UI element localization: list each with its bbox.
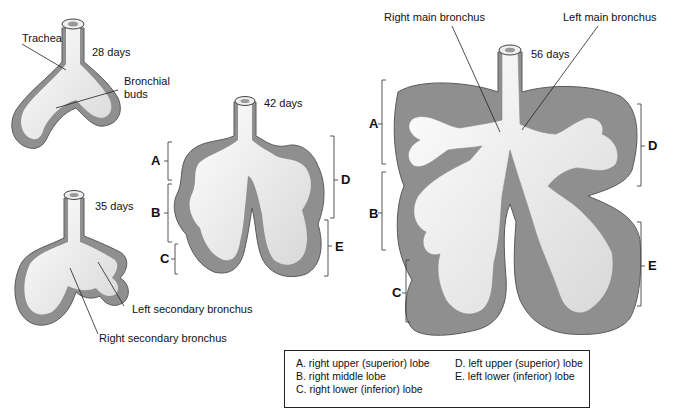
stage-42-days-lung — [164, 97, 338, 277]
legend-item-b: B. right middle lobe — [296, 370, 386, 382]
letter-d-42: D — [341, 173, 350, 187]
letter-c-56: C — [392, 286, 401, 300]
stage-35-days-lung — [15, 191, 128, 335]
label-right-main-bronchus: Right main bronchus — [384, 11, 485, 23]
label-35-days: 35 days — [95, 200, 134, 212]
legend-item-c: C. right lower (inferior) lobe — [296, 383, 423, 395]
letter-d-56: D — [648, 139, 657, 153]
label-left-secondary-bronchus: Left secondary bronchus — [132, 303, 252, 315]
label-28-days: 28 days — [92, 46, 131, 58]
letter-a-56: A — [369, 117, 378, 131]
label-bronchial-buds-line1: Bronchial — [124, 75, 170, 87]
letter-e-56: E — [648, 259, 657, 273]
label-right-secondary-bronchus: Right secondary bronchus — [99, 332, 227, 344]
lobe-legend: A. right upper (superior) lobe B. right … — [284, 350, 590, 408]
letter-a-42: A — [151, 154, 160, 168]
legend-item-a: A. right upper (superior) lobe — [296, 357, 430, 369]
label-bronchial-buds-line2: buds — [124, 88, 148, 100]
stage-56-days-lung — [378, 26, 645, 335]
legend-item-d: D. left upper (superior) lobe — [455, 357, 583, 369]
letter-b-42: B — [151, 206, 160, 220]
letter-e-42: E — [335, 240, 344, 254]
label-trachea: Trachea — [22, 32, 62, 44]
label-42-days: 42 days — [264, 97, 303, 109]
letter-c-42: C — [160, 252, 169, 266]
label-left-main-bronchus: Left main bronchus — [563, 11, 657, 23]
legend-item-e: E. left lower (inferior) lobe — [455, 370, 575, 382]
letter-b-56: B — [369, 207, 378, 221]
label-56-days: 56 days — [531, 48, 570, 60]
